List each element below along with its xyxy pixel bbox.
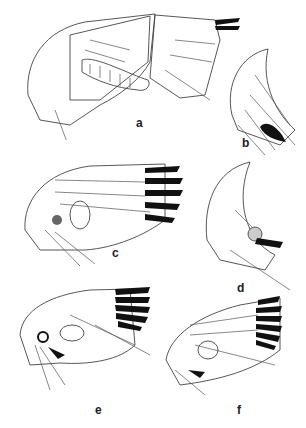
panel-d-drawing <box>195 160 306 295</box>
panel-e-drawing <box>10 285 160 420</box>
panel-f: f <box>160 290 306 420</box>
panel-c-drawing <box>15 160 190 270</box>
panel-label-a: a <box>136 116 143 130</box>
panel-label-f: f <box>237 403 241 417</box>
panel-e: e <box>10 285 160 420</box>
panel-label-e: e <box>95 403 102 417</box>
panel-f-drawing <box>160 290 306 420</box>
panel-b: b <box>220 45 306 155</box>
panel-b-drawing <box>220 45 306 155</box>
panel-d: d <box>195 160 306 295</box>
panel-label-c: c <box>112 246 119 260</box>
panel-a: a <box>0 0 240 140</box>
panel-label-b: b <box>242 136 249 150</box>
panel-a-drawing <box>0 0 240 140</box>
panel-c: c <box>15 160 190 270</box>
figure-plate: a b c <box>0 0 306 428</box>
